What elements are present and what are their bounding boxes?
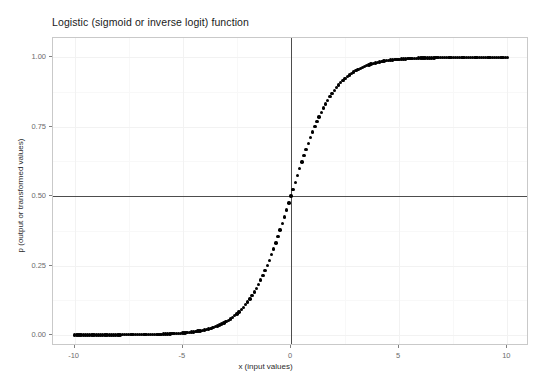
x-tick-label: 0 [288, 351, 292, 360]
y-tick-mark [49, 56, 52, 57]
x-tick-mark [506, 345, 507, 348]
data-point [253, 290, 256, 293]
plot-panel [52, 37, 528, 345]
y-tick-label: 0.50 [6, 191, 46, 200]
data-point [266, 264, 269, 267]
data-point [270, 253, 273, 256]
x-tick-label: 5 [396, 351, 400, 360]
data-point [328, 95, 331, 98]
data-point [296, 174, 299, 177]
x-tick-mark [398, 345, 399, 348]
data-point [281, 222, 284, 225]
y-tick-mark [49, 265, 52, 266]
x-tick-mark [290, 345, 291, 348]
data-point [304, 148, 307, 151]
data-point [259, 278, 262, 281]
data-point [263, 269, 266, 272]
data-point [291, 188, 294, 191]
data-point [283, 215, 286, 218]
x-tick-label: -5 [178, 351, 185, 360]
data-point [268, 259, 271, 262]
data-point [333, 89, 336, 92]
x-tick-mark [182, 345, 183, 348]
data-point [311, 130, 314, 133]
data-point [326, 99, 329, 102]
y-tick-mark [49, 126, 52, 127]
data-point [272, 247, 275, 250]
x-tick-mark [74, 345, 75, 348]
data-point [313, 125, 316, 128]
data-point [276, 235, 279, 238]
data-point [322, 106, 325, 109]
data-point [294, 181, 297, 184]
data-point [250, 294, 253, 297]
chart-title: Logistic (sigmoid or inverse logit) func… [52, 16, 249, 28]
y-tick-label: 0.75 [6, 121, 46, 130]
data-point [315, 120, 318, 123]
y-tick-mark [49, 195, 52, 196]
data-point [246, 300, 249, 303]
data-point [506, 56, 509, 59]
data-point [242, 306, 245, 309]
x-tick-label: 10 [502, 351, 510, 360]
data-point [248, 297, 251, 300]
y-tick-label: 1.00 [6, 52, 46, 61]
data-point [317, 115, 320, 118]
x-tick-label: -10 [68, 351, 79, 360]
y-tick-label: 0.25 [6, 260, 46, 269]
y-tick-label: 0.00 [6, 329, 46, 338]
data-point [278, 228, 281, 231]
data-point [330, 92, 333, 95]
data-point [287, 201, 290, 204]
data-point [307, 142, 310, 145]
x-axis-label-text: x (input values) [238, 362, 292, 371]
y-axis-label: p (output or transformed values) [16, 116, 25, 276]
data-point [285, 208, 288, 211]
data-point [320, 111, 323, 114]
data-point [257, 283, 260, 286]
x-axis-label: x (input values) [0, 362, 555, 371]
data-point [309, 136, 312, 139]
data-point [261, 274, 264, 277]
data-point [289, 194, 292, 197]
data-points-layer [53, 38, 527, 344]
data-point [324, 102, 327, 105]
data-point [298, 167, 301, 170]
data-point [302, 154, 305, 157]
data-point [274, 241, 277, 244]
chart-plot-area: Logistic (sigmoid or inverse logit) func… [0, 0, 555, 391]
y-tick-mark [49, 334, 52, 335]
data-point [300, 160, 303, 163]
data-point [255, 287, 258, 290]
